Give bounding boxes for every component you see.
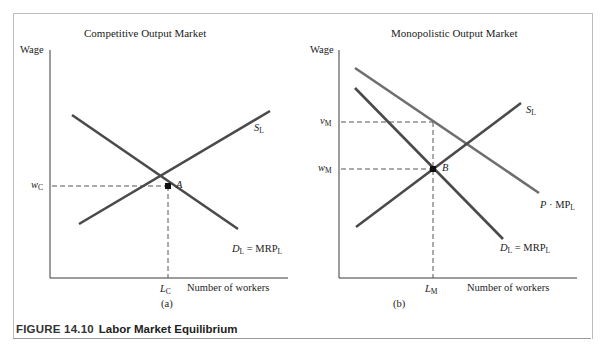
panel-a-supply-label: SL bbox=[254, 122, 264, 135]
panel-b-demand-label: DL = MRPL bbox=[500, 242, 550, 255]
panel-a-labor-tick: LC bbox=[160, 283, 171, 296]
panel-b-demand-curve bbox=[355, 88, 503, 239]
panel-a-sublabel: (a) bbox=[161, 298, 173, 309]
panel-a-supply-curve bbox=[79, 111, 270, 224]
panel-a-equilibrium-point bbox=[165, 183, 171, 189]
panel-b-title: Monopolistic Output Market bbox=[391, 27, 518, 39]
panel-b-dashed-guides bbox=[341, 122, 433, 278]
panel-a-wage-tick: wC bbox=[31, 179, 43, 192]
panel-b-x-label: Number of workers bbox=[467, 282, 549, 293]
figure-title: Labor Market Equilibrium bbox=[99, 323, 238, 335]
panel-b-labor-tick: LM bbox=[425, 283, 438, 296]
panel-b-y-label: Wage bbox=[310, 44, 334, 55]
panel-a-x-label: Number of workers bbox=[187, 282, 269, 293]
panel-a-y-label: Wage bbox=[20, 44, 44, 55]
panel-a-point-label: A bbox=[176, 179, 182, 190]
chart-canvas bbox=[0, 0, 605, 348]
panel-b-v-tick: vM bbox=[320, 115, 331, 128]
panel-b-wage-tick: wM bbox=[318, 162, 332, 175]
panel-b-vmp-label: P · MPL bbox=[540, 199, 575, 212]
panel-a-title: Competitive Output Market bbox=[84, 27, 206, 39]
panel-a-demand-label: DL = MRPL bbox=[232, 243, 282, 256]
panel-b-point-label: B bbox=[442, 162, 448, 173]
panel-b-vmp-curve bbox=[355, 68, 539, 193]
figure-number: FIGURE 14.10 bbox=[16, 323, 94, 335]
figure-caption: FIGURE 14.10Labor Market Equilibrium bbox=[16, 323, 238, 335]
panel-b-equilibrium-point bbox=[430, 166, 436, 172]
panel-a-dashed-guides bbox=[52, 186, 168, 278]
panel-b-sublabel: (b) bbox=[393, 298, 405, 309]
panel-b-supply-label: SL bbox=[526, 104, 536, 117]
